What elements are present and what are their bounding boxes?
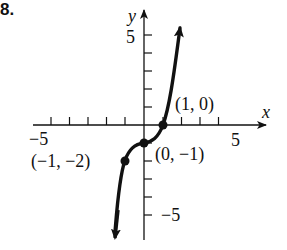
cubic-graph: y x 5 −5 5 −5 (1, 0) (0, −1) (−1, −2) bbox=[0, 0, 287, 250]
point-neg1-neg2 bbox=[121, 157, 130, 166]
point-label-0-neg1: (0, −1) bbox=[155, 144, 204, 165]
y-tick-label-neg5: −5 bbox=[161, 205, 180, 225]
x-tick-label-neg5: −5 bbox=[29, 129, 48, 149]
point-0-neg1 bbox=[140, 139, 149, 148]
point-1-0 bbox=[159, 121, 168, 130]
y-tick-label-5: 5 bbox=[126, 27, 135, 47]
y-axis-label: y bbox=[126, 6, 136, 26]
x-axis-label: x bbox=[261, 102, 270, 122]
x-axis bbox=[33, 117, 266, 125]
x-ticks bbox=[51, 117, 219, 125]
x-tick-label-5: 5 bbox=[231, 130, 240, 150]
point-label-1-0: (1, 0) bbox=[175, 94, 214, 115]
function-curve bbox=[115, 28, 180, 232]
point-label-neg1-neg2: (−1, −2) bbox=[31, 151, 90, 172]
